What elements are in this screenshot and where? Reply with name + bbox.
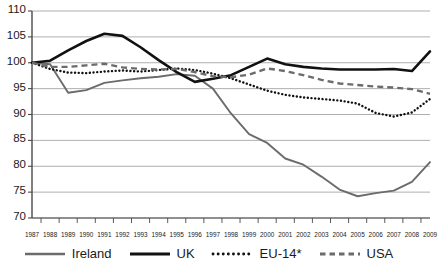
- legend-item-ireland[interactable]: Ireland: [23, 246, 112, 261]
- chart-legend: IrelandUKEU-14*USA: [0, 243, 432, 264]
- y-axis-label: 75: [0, 184, 26, 196]
- data-series-group: [32, 34, 430, 196]
- solid-thin-gray-line-icon: [23, 248, 67, 260]
- legend-item-uk[interactable]: UK: [128, 246, 195, 261]
- y-axis-label: 110: [0, 3, 26, 15]
- legend-item-usa[interactable]: USA: [318, 246, 394, 261]
- legend-label: Ireland: [72, 246, 112, 261]
- y-axis-label: 80: [0, 158, 26, 170]
- solid-thick-black-line-icon: [128, 248, 172, 260]
- legend-label: USA: [367, 246, 394, 261]
- dashed-gray-line-icon: [318, 248, 362, 260]
- y-axis-label: 95: [0, 81, 26, 93]
- x-tick-marks: [41, 218, 432, 223]
- x-axis-label: 2009: [419, 231, 441, 238]
- y-axis-label: 90: [0, 107, 26, 119]
- y-axis-label: 100: [0, 55, 26, 67]
- y-axis-label: 85: [0, 132, 26, 144]
- series-line-uk: [32, 34, 430, 82]
- legend-label: UK: [177, 246, 195, 261]
- y-axis-label: 70: [0, 210, 26, 222]
- series-line-usa: [32, 63, 430, 94]
- series-line-ireland: [32, 63, 430, 197]
- legend-item-eu-14[interactable]: EU-14*: [211, 246, 302, 261]
- legend-label: EU-14*: [260, 246, 302, 261]
- series-line-eu-14: [32, 63, 430, 117]
- y-axis-label: 105: [0, 29, 26, 41]
- dotted-black-line-icon: [211, 248, 255, 260]
